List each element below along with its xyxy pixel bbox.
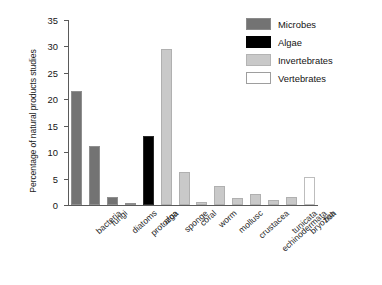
y-tick-label: 30 <box>48 41 58 52</box>
bar-fish <box>304 177 315 205</box>
bar-diatoms <box>107 197 118 205</box>
y-tick-label: 25 <box>48 67 58 78</box>
bar-crustacea <box>232 198 243 205</box>
legend-item-invertebrates: Invertebrates <box>246 52 376 68</box>
x-tick-label-worm: worm <box>216 208 238 229</box>
legend-swatch-algae <box>246 36 271 48</box>
legend-label-microbes: Microbes <box>278 19 316 30</box>
legend-swatch-invertebrates <box>246 54 271 66</box>
legend-label-algae: Algae <box>278 37 302 48</box>
y-tick-label: 35 <box>48 15 58 26</box>
bar-sponge <box>161 49 172 205</box>
bar-chart: Percentage of natural products studies 0… <box>0 0 382 285</box>
legend-label-vertebrates: Vertebrates <box>278 73 326 84</box>
y-axis-title: Percentage of natural products studies <box>28 26 38 216</box>
y-tick-label: 10 <box>48 147 58 158</box>
bar-protozoa <box>125 203 136 205</box>
bar-tunicata <box>268 200 279 205</box>
bar-bacteria <box>71 91 82 205</box>
y-tick-label: 0 <box>53 200 58 211</box>
y-tick-label: 15 <box>48 120 58 131</box>
bar-alga <box>143 136 154 205</box>
legend: MicrobesAlgaeInvertebratesVertebrates <box>246 16 376 88</box>
y-tick-label: 5 <box>53 173 58 184</box>
bar-fungi <box>89 146 100 205</box>
legend-swatch-microbes <box>246 18 271 30</box>
legend-item-vertebrates: Vertebrates <box>246 70 376 86</box>
legend-item-algae: Algae <box>246 34 376 50</box>
legend-label-invertebrates: Invertebrates <box>278 55 333 66</box>
legend-item-microbes: Microbes <box>246 16 376 32</box>
legend-swatch-vertebrates <box>246 72 271 84</box>
bar-coral <box>179 172 190 205</box>
y-tick-label: 20 <box>48 94 58 105</box>
bar-worm <box>196 202 207 205</box>
x-axis-tick-labels: bacteriafungidiatomsprotozoaalgaspongeco… <box>68 208 318 284</box>
bar-echinodermata <box>250 194 261 205</box>
bar-mollusc <box>214 186 225 205</box>
bar-bryozoa <box>286 197 297 205</box>
